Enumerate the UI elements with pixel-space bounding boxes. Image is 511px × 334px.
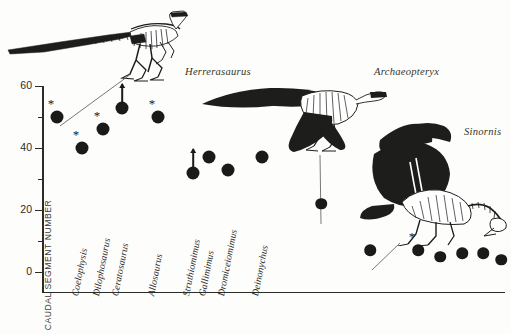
y-tick-50 xyxy=(38,117,42,118)
leader-archaeopteryx xyxy=(320,155,321,224)
y-tick-20 xyxy=(35,210,42,211)
y-axis-line: CAUDAL SEGMENT NUMBER 60 40 20 0 xyxy=(42,86,44,293)
data-point xyxy=(222,163,235,176)
data-point xyxy=(97,123,110,136)
y-axis-title: CAUDAL SEGMENT NUMBER xyxy=(43,180,53,334)
asterisk-marker: * xyxy=(149,97,156,110)
data-point xyxy=(495,254,507,266)
archaeopteryx-skeleton xyxy=(198,78,388,158)
y-tick-60 xyxy=(35,86,42,87)
x-category-label-deinonychus: Deinonychus xyxy=(249,244,270,297)
data-point xyxy=(315,198,327,210)
asterisk-marker: * xyxy=(94,109,101,122)
callout-herrerasaurus: Herrerasaurus xyxy=(185,66,251,77)
y-tick-0 xyxy=(35,272,42,273)
y-tick-30 xyxy=(38,179,42,180)
y-tick-40 xyxy=(35,148,42,149)
data-point xyxy=(456,248,468,260)
callout-sinornis: Sinornis xyxy=(464,126,501,137)
x-category-label-coelophysis: Coelophysis xyxy=(69,247,89,297)
x-category-label-gallimimus: Gallimimus xyxy=(196,250,216,297)
asterisk-marker: * xyxy=(409,230,416,243)
x-category-label-dilophosaurus: Dilophosaurus xyxy=(90,237,112,297)
leader-sinornis xyxy=(372,243,400,270)
y-tick-label-0: 0 xyxy=(8,266,32,277)
data-point xyxy=(187,166,200,179)
x-category-label-dromiceiomimus: Dromiceiomimus xyxy=(215,228,239,297)
asterisk-marker: * xyxy=(48,97,55,110)
up-arrow-marker xyxy=(192,149,194,167)
asterisk-marker: * xyxy=(73,128,80,141)
callout-archaeopteryx: Archaeopteryx xyxy=(374,66,439,77)
data-point xyxy=(116,101,129,114)
data-point xyxy=(364,245,376,257)
y-tick-10 xyxy=(38,241,42,242)
y-tick-label-20: 20 xyxy=(8,204,32,215)
y-tick-label-60: 60 xyxy=(8,80,32,91)
data-point xyxy=(76,142,89,155)
sinornis-skeleton xyxy=(358,118,508,246)
data-point xyxy=(256,151,269,164)
herrerasaurus-skeleton xyxy=(0,2,190,82)
data-point xyxy=(203,151,216,164)
up-arrow-marker xyxy=(121,84,123,102)
x-category-label-ceratosaurus: Ceratosaurus xyxy=(109,242,130,297)
x-category-label-allosaurus: Allosaurus xyxy=(145,253,164,297)
data-point xyxy=(412,245,424,257)
data-point xyxy=(477,248,489,260)
data-point xyxy=(152,111,165,124)
y-tick-label-40: 40 xyxy=(8,142,32,153)
data-point xyxy=(51,111,64,124)
data-point xyxy=(434,251,446,263)
